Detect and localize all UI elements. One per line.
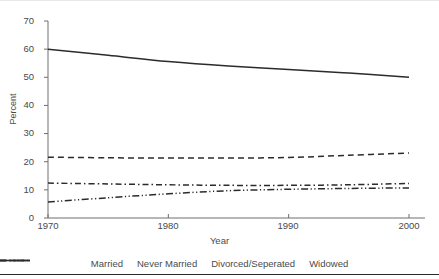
legend-item-widowed: Widowed — [309, 259, 348, 269]
legend-label-widowed: Widowed — [309, 259, 348, 269]
dash-dot-dot-line-key-icon — [0, 256, 30, 265]
y-tick-marks — [44, 21, 48, 218]
chart-figure: Percent 70 60 50 40 30 20 10 0 1970 1980… — [0, 0, 439, 279]
series-line-never-married — [48, 153, 409, 158]
series-line-widowed — [48, 188, 409, 202]
chart-legend: Married Never Married Divorced/Seperated… — [0, 256, 439, 271]
bottom-divider — [0, 274, 439, 275]
legend-item-never-married: Never Married — [137, 259, 197, 269]
data-series-group — [48, 49, 409, 202]
legend-item-divorced-seperated: Divorced/Seperated — [211, 259, 295, 269]
legend-label-married: Married — [91, 259, 123, 269]
x-axis-label: Year — [0, 235, 439, 246]
axis-lines — [44, 21, 425, 218]
series-line-married — [48, 49, 409, 77]
legend-label-divorced-seperated: Divorced/Seperated — [211, 259, 295, 269]
legend-label-never-married: Never Married — [137, 259, 197, 269]
x-tick-marks — [48, 214, 409, 218]
legend-item-married: Married — [91, 259, 123, 269]
series-line-divorced-seperated — [48, 183, 409, 185]
